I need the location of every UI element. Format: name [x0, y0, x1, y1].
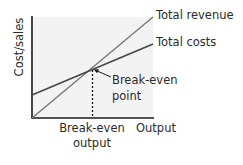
break-even-point-label-line2: point — [112, 89, 142, 103]
y-axis-label: Cost/sales — [12, 18, 26, 77]
total-revenue-label: Total revenue — [155, 8, 234, 22]
total-costs-label: Total costs — [155, 35, 216, 49]
break-even-output-label-line1: Break-even — [59, 121, 125, 135]
break-even-output-label-line2: output — [73, 136, 111, 150]
break-even-chart: Total revenue Total costs Break-even poi… — [0, 0, 243, 165]
break-even-point-label-line1: Break-even — [112, 73, 178, 87]
x-axis-label: Output — [136, 121, 176, 135]
